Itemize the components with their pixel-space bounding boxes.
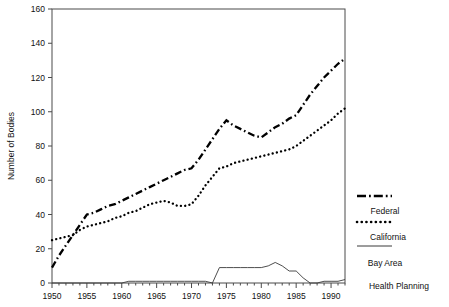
chart-figure: 020406080100120140160 195019551960196519… xyxy=(0,0,449,307)
x-tick-label: 1970 xyxy=(182,291,201,301)
legend-label-bay-area: Bay Area xyxy=(368,258,403,268)
x-tick-label: 1975 xyxy=(217,291,236,301)
legend-label-health-planning: Health Planning xyxy=(369,281,429,291)
x-tick-label: 1950 xyxy=(43,291,62,301)
y-tick-label: 80 xyxy=(36,141,46,151)
y-axis-label: Number of Bodies xyxy=(6,112,16,180)
series-line-bay-area xyxy=(52,262,345,283)
y-axis-ticks: 020406080100120140160 xyxy=(31,4,52,288)
x-tick-label: 1960 xyxy=(112,291,131,301)
chart-legend: Federal California Bay Area Health Plann… xyxy=(357,196,429,291)
y-tick-label: 140 xyxy=(31,38,45,48)
x-axis-ticks: 195019551960196519701975198019851990 xyxy=(43,283,345,301)
y-tick-label: 120 xyxy=(31,73,45,83)
series-line-federal xyxy=(52,59,345,268)
x-tick-label: 1985 xyxy=(287,291,306,301)
y-tick-label: 20 xyxy=(36,244,46,254)
y-tick-label: 100 xyxy=(31,107,45,117)
plot-area-frame xyxy=(52,9,345,283)
x-tick-label: 1980 xyxy=(252,291,271,301)
line-chart-svg: 020406080100120140160 195019551960196519… xyxy=(0,0,449,307)
y-tick-label: 60 xyxy=(36,175,46,185)
legend-label-federal: Federal xyxy=(371,206,400,216)
y-tick-label: 40 xyxy=(36,210,46,220)
legend-label-california: California xyxy=(370,232,406,242)
series-line-california xyxy=(52,108,345,240)
x-tick-label: 1965 xyxy=(147,291,166,301)
y-tick-label: 160 xyxy=(31,4,45,14)
x-tick-label: 1990 xyxy=(322,291,341,301)
x-tick-label: 1955 xyxy=(77,291,96,301)
y-tick-label: 0 xyxy=(40,278,45,288)
